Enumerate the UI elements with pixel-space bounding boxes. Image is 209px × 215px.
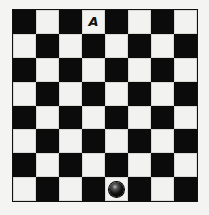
board-square-r6-c0[interactable] [13,153,36,177]
board-square-r2-c7[interactable] [174,58,197,82]
checkerboard: A [12,9,198,202]
board-square-r7-c6[interactable] [151,177,174,201]
board-square-r1-c2[interactable] [59,34,82,58]
board-square-r6-c2[interactable] [59,153,82,177]
board-square-r2-c4[interactable] [105,58,128,82]
board-square-r1-c4[interactable] [105,34,128,58]
board-square-r1-c0[interactable] [13,34,36,58]
board-square-r4-c4[interactable] [105,106,128,130]
board-square-r6-c6[interactable] [151,153,174,177]
board-square-r0-c3[interactable]: A [82,10,105,34]
board-square-r7-c5[interactable] [128,177,151,201]
board-square-r7-c7[interactable] [174,177,197,201]
board-square-r4-c1[interactable] [36,106,59,130]
board-square-r4-c5[interactable] [128,106,151,130]
board-square-r2-c3[interactable] [82,58,105,82]
board-square-r1-c5[interactable] [128,34,151,58]
board-square-r5-c4[interactable] [105,129,128,153]
board-square-r5-c1[interactable] [36,129,59,153]
board-square-r6-c3[interactable] [82,153,105,177]
board-square-r5-c2[interactable] [59,129,82,153]
board-square-r6-c1[interactable] [36,153,59,177]
board-square-r7-c0[interactable] [13,177,36,201]
board-square-r7-c4[interactable] [105,177,128,201]
board-square-r7-c3[interactable] [82,177,105,201]
board-square-r2-c0[interactable] [13,58,36,82]
board-square-r4-c6[interactable] [151,106,174,130]
board-square-r5-c3[interactable] [82,129,105,153]
board-square-r2-c6[interactable] [151,58,174,82]
board-square-r5-c0[interactable] [13,129,36,153]
board-square-r0-c1[interactable] [36,10,59,34]
board-square-r7-c1[interactable] [36,177,59,201]
board-square-r0-c5[interactable] [128,10,151,34]
square-label-a: A [88,14,98,29]
board-square-r4-c0[interactable] [13,106,36,130]
board-square-r3-c2[interactable] [59,82,82,106]
board-square-r3-c4[interactable] [105,82,128,106]
board-square-r5-c6[interactable] [151,129,174,153]
board-square-r5-c5[interactable] [128,129,151,153]
board-square-r4-c3[interactable] [82,106,105,130]
board-square-r3-c3[interactable] [82,82,105,106]
board-square-r2-c1[interactable] [36,58,59,82]
board-square-r6-c5[interactable] [128,153,151,177]
board-square-r6-c4[interactable] [105,153,128,177]
ball-piece-icon[interactable] [109,182,124,197]
board-square-r7-c2[interactable] [59,177,82,201]
board-square-r2-c2[interactable] [59,58,82,82]
board-square-r1-c6[interactable] [151,34,174,58]
board-square-r5-c7[interactable] [174,129,197,153]
board-square-r0-c2[interactable] [59,10,82,34]
board-square-r3-c5[interactable] [128,82,151,106]
board-square-r0-c7[interactable] [174,10,197,34]
board-square-r0-c4[interactable] [105,10,128,34]
board-square-r0-c0[interactable] [13,10,36,34]
board-square-r3-c7[interactable] [174,82,197,106]
board-square-r4-c7[interactable] [174,106,197,130]
board-square-r6-c7[interactable] [174,153,197,177]
board-square-r3-c1[interactable] [36,82,59,106]
board-square-r4-c2[interactable] [59,106,82,130]
board-square-r3-c0[interactable] [13,82,36,106]
board-square-r2-c5[interactable] [128,58,151,82]
board-square-r1-c1[interactable] [36,34,59,58]
board-square-r1-c3[interactable] [82,34,105,58]
board-square-r0-c6[interactable] [151,10,174,34]
board-square-r1-c7[interactable] [174,34,197,58]
board-square-r3-c6[interactable] [151,82,174,106]
